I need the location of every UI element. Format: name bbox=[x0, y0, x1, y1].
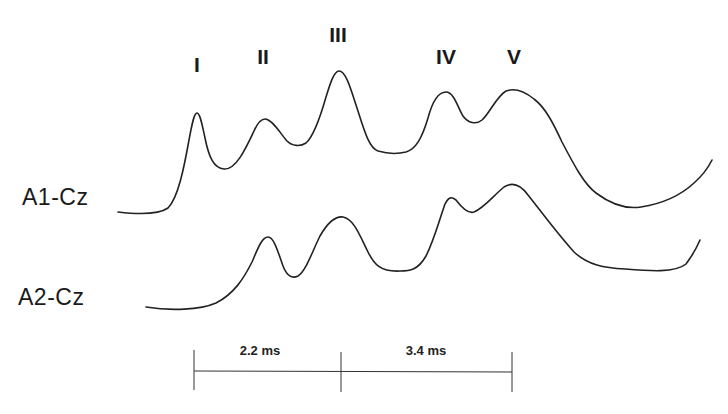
peak-label-ii: II bbox=[257, 45, 269, 68]
peak-label-v: V bbox=[507, 45, 521, 68]
peak-labels: I II III IV V bbox=[194, 23, 521, 76]
peak-label-i: I bbox=[194, 53, 200, 76]
scale-bar-line bbox=[194, 371, 512, 372]
interval-label-iii-v: 3.4 ms bbox=[406, 343, 446, 358]
channel-label-a1-cz: A1-Cz bbox=[22, 184, 88, 210]
peak-label-iii: III bbox=[329, 23, 347, 46]
channel-label-a2-cz: A2-Cz bbox=[18, 284, 84, 310]
abr-waveform-figure: I II III IV V A1-Cz A2-Cz 2.2 ms 3.4 ms bbox=[0, 0, 728, 414]
peak-label-iv: IV bbox=[436, 45, 456, 68]
interpeak-scale-bar: 2.2 ms 3.4 ms bbox=[194, 343, 512, 392]
trace-a1-cz bbox=[118, 71, 712, 213]
trace-a2-cz bbox=[146, 184, 700, 309]
interval-label-i-iii: 2.2 ms bbox=[240, 343, 280, 358]
